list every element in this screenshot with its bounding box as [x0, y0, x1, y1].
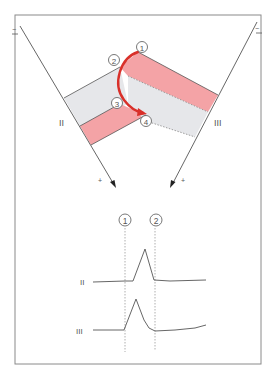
lead-II-neg-sign: −	[12, 26, 16, 33]
lead-II-arrowhead-icon	[110, 180, 116, 188]
marker-1: 1	[137, 42, 148, 53]
vector-diagram-figure: − − + + II III 1 2 3 4 1 2 II III	[0, 0, 274, 370]
ecg-trace-II-label: II	[80, 278, 84, 287]
lead-III-neg-sign: −	[255, 25, 259, 32]
marker-2: 2	[109, 55, 120, 66]
svg-text:1: 1	[140, 44, 145, 53]
svg-text:1: 1	[123, 216, 128, 226]
lead-II-pos-sign: +	[98, 177, 102, 184]
svg-text:4: 4	[144, 118, 149, 127]
marker-3: 3	[112, 98, 123, 109]
lead-II-label: II	[59, 118, 64, 128]
lead-III-label: III	[214, 118, 222, 128]
depolarization-bands	[64, 52, 218, 145]
svg-text:2: 2	[112, 57, 117, 66]
ecg-trace-III: III	[76, 299, 206, 336]
marker-4: 4	[141, 116, 152, 127]
ecg-trace-III-label: III	[76, 327, 83, 336]
lead-III-arrowhead-icon	[170, 180, 176, 188]
svg-text:2: 2	[154, 216, 159, 226]
ecg-trace-II: II	[80, 249, 206, 287]
svg-text:3: 3	[115, 100, 120, 109]
lead-III-pos-sign: +	[181, 177, 185, 184]
ecg-time-marker-1: 1	[119, 214, 131, 352]
